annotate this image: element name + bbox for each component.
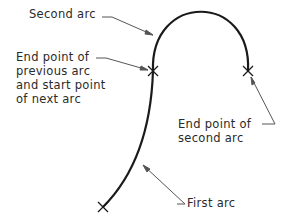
label-first-arc: First arc — [187, 197, 235, 210]
arc-drawing — [0, 0, 282, 219]
arrowhead-icon — [140, 66, 148, 70]
label-end-prev-1: End point of — [16, 51, 89, 64]
label-end-second-2: second arc — [178, 132, 244, 145]
arc-diagram: Second arc End point of previous arc and… — [0, 0, 282, 219]
label-end-second-1: End point of — [178, 118, 251, 131]
label-end-prev-4: of next arc — [16, 93, 81, 106]
second-arc — [153, 12, 248, 71]
leader-first-arc — [143, 165, 185, 204]
label-end-prev-3: and start point — [16, 79, 106, 92]
leader-end-second — [251, 77, 275, 124]
arrowhead-icon — [251, 77, 255, 85]
label-end-prev-2: previous arc — [16, 65, 90, 78]
first-arc — [103, 71, 153, 207]
start-point-marker — [98, 202, 108, 212]
label-second-arc: Second arc — [29, 8, 96, 21]
arrowhead-icon — [145, 30, 153, 35]
